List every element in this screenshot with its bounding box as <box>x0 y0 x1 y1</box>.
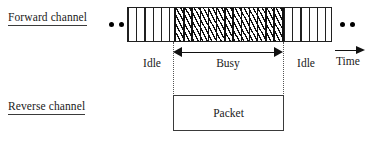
packet-box: Packet <box>173 95 284 131</box>
ellipsis-left-icon <box>109 22 124 27</box>
time-axis-label: Time <box>336 55 360 68</box>
channel-timing-diagram: Forward channel Idle Busy Idle Time Reve… <box>0 0 372 141</box>
ellipsis-right-icon <box>340 22 355 27</box>
arrow-shaft <box>335 50 358 52</box>
busy-caption: Busy <box>173 57 283 70</box>
dot-icon <box>119 22 124 27</box>
slot-segment-busy <box>174 8 284 41</box>
arrow-head-right-icon <box>356 46 365 54</box>
forward-channel-label: Forward channel <box>8 11 87 26</box>
slot-segment-idle-left <box>128 8 174 41</box>
idle-left-caption: Idle <box>131 57 173 70</box>
arrow-head-right-icon <box>274 47 283 57</box>
packet-label: Packet <box>213 107 244 120</box>
dot-icon <box>340 22 345 27</box>
idle-right-caption: Idle <box>284 57 328 70</box>
time-axis-arrow-icon <box>335 46 365 55</box>
forward-channel-slot-bar <box>127 7 332 42</box>
dot-icon <box>350 22 355 27</box>
arrow-shaft <box>180 52 276 54</box>
reverse-channel-label: Reverse channel <box>8 100 85 115</box>
slot-segment-idle-right <box>284 8 332 41</box>
dot-icon <box>109 22 114 27</box>
